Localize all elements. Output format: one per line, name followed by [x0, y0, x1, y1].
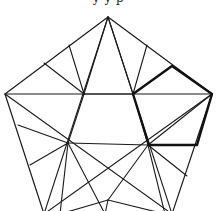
- segment-line: [148, 145, 165, 211]
- segment-line: [84, 17, 108, 94]
- segment-line: [148, 94, 212, 145]
- pentagon-diagram: [0, 0, 217, 211]
- segment-line: [44, 94, 212, 211]
- segment-line: [105, 200, 108, 211]
- segment-line: [30, 143, 68, 165]
- highlighted-small-pentagon: [133, 66, 212, 145]
- segment-line: [44, 63, 84, 94]
- internal-segments: [5, 17, 212, 211]
- segment-line: [5, 94, 172, 211]
- outer-pentagon: [5, 17, 212, 211]
- segment-line: [68, 143, 148, 145]
- segment-line: [108, 17, 133, 94]
- segment-line: [69, 45, 84, 94]
- segment-line: [148, 145, 187, 176]
- segment-line: [68, 94, 84, 143]
- segment-line: [108, 200, 165, 211]
